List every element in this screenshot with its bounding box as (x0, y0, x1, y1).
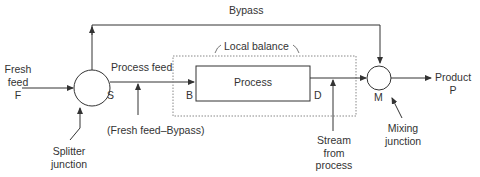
mixing-junction-circle (367, 66, 391, 90)
local-balance-bracket-left (215, 45, 221, 53)
process-outlet-letter: D (314, 89, 322, 102)
mixing-label-line2: junction (385, 135, 421, 148)
mixer-letter: M (374, 91, 383, 104)
splitter-label-line1: Splitter (48, 145, 90, 158)
mixing-junction-label: Mixing junction (385, 122, 421, 147)
stream-from-process-line3: process (314, 159, 354, 172)
splitter-junction-circle (74, 70, 110, 106)
splitter-label-line2: junction (48, 158, 90, 171)
process-feed-note: (Fresh feed–Bypass) (107, 124, 204, 137)
process-label: Process (196, 76, 310, 89)
mixing-label-line1: Mixing (385, 122, 421, 135)
mixing-label-pointer (392, 98, 402, 118)
product-label: Product P (433, 71, 473, 96)
splitter-label-pointer (70, 108, 80, 140)
fresh-feed-symbol: F (4, 89, 32, 102)
stream-from-process-label: Stream from process (314, 134, 354, 172)
fresh-feed-line2: feed (4, 76, 32, 89)
fresh-feed-label: Fresh feed F (4, 63, 32, 102)
process-feed-label: Process feed (111, 61, 172, 74)
local-balance-bracket-right (293, 45, 299, 53)
stream-from-process-line1: Stream (314, 134, 354, 147)
process-inlet-letter: B (186, 89, 193, 102)
bypass-label: Bypass (229, 4, 263, 17)
splitter-letter: S (107, 89, 114, 102)
product-symbol: P (433, 84, 473, 97)
splitter-junction-label: Splitter junction (48, 145, 90, 170)
local-balance-label: Local balance (224, 40, 289, 53)
fresh-feed-line1: Fresh (4, 63, 32, 76)
product-line1: Product (433, 71, 473, 84)
stream-from-process-line2: from (314, 147, 354, 160)
